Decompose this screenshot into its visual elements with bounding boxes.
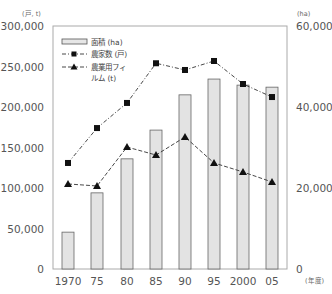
x-tick-label: 75 [90, 275, 103, 287]
area-bar [150, 130, 162, 269]
combo-chart: (戸, t) (ha) 050,000100,000150,000200,000… [0, 0, 332, 294]
legend-households-label: 農家数 (戸) [91, 49, 127, 59]
right-tick-label: 60,000 [296, 20, 332, 32]
area-bar [208, 79, 220, 269]
right-axis-unit: (ha) [297, 10, 310, 18]
square-marker [153, 60, 159, 66]
left-tick-label: 200,000 [1, 101, 44, 113]
square-marker [124, 100, 130, 106]
legend-bar-swatch [62, 39, 87, 44]
legend: 面積 (ha) 農家数 (戸) 農業用フィ ルム (t) [62, 37, 127, 83]
plot-frame [53, 26, 287, 269]
square-marker [240, 81, 246, 87]
area-bar [62, 232, 74, 269]
area-bar [91, 193, 103, 269]
left-tick-label: 100,000 [1, 182, 44, 194]
right-axis-ticks: 020,00040,00060,000 [296, 20, 332, 275]
x-tick-label: 80 [120, 275, 133, 287]
x-tick-label: 90 [178, 275, 191, 287]
area-bar [121, 159, 133, 269]
area-bar [237, 85, 249, 269]
x-tick-label: 1970 [55, 275, 82, 287]
triangle-marker [123, 143, 131, 150]
triangle-marker-icon [71, 64, 78, 70]
x-axis-unit: (年度) [305, 276, 324, 285]
square-marker [211, 58, 217, 64]
right-tick-label: 40,000 [296, 101, 332, 113]
square-marker [269, 94, 275, 100]
left-tick-label: 50,000 [7, 223, 44, 235]
square-marker [182, 67, 188, 73]
x-tick-label: 85 [149, 275, 162, 287]
left-tick-label: 250,000 [1, 61, 44, 73]
square-marker [65, 160, 71, 166]
left-axis-ticks: 050,000100,000150,000200,000250,000300,0… [1, 20, 44, 275]
legend-film-label-2: ルム (t) [91, 74, 116, 83]
legend-area-label: 面積 (ha) [91, 37, 123, 47]
right-tick-label: 20,000 [296, 182, 332, 194]
left-tick-label: 150,000 [1, 142, 44, 154]
x-tick-label: 95 [207, 275, 220, 287]
right-tick-label: 0 [296, 263, 303, 275]
legend-film-label-1: 農業用フィ [91, 62, 126, 72]
left-tick-label: 0 [37, 263, 44, 275]
left-axis-unit: (戸, t) [22, 10, 41, 18]
left-tick-label: 300,000 [1, 20, 44, 32]
square-marker [94, 125, 100, 131]
area-bar [179, 95, 191, 269]
x-tick-label: 2000 [230, 275, 257, 287]
x-axis-ticks: 19707580859095200005 [55, 275, 279, 287]
triangle-marker [64, 180, 72, 187]
x-tick-label: 05 [265, 275, 278, 287]
square-marker-icon [72, 52, 77, 57]
